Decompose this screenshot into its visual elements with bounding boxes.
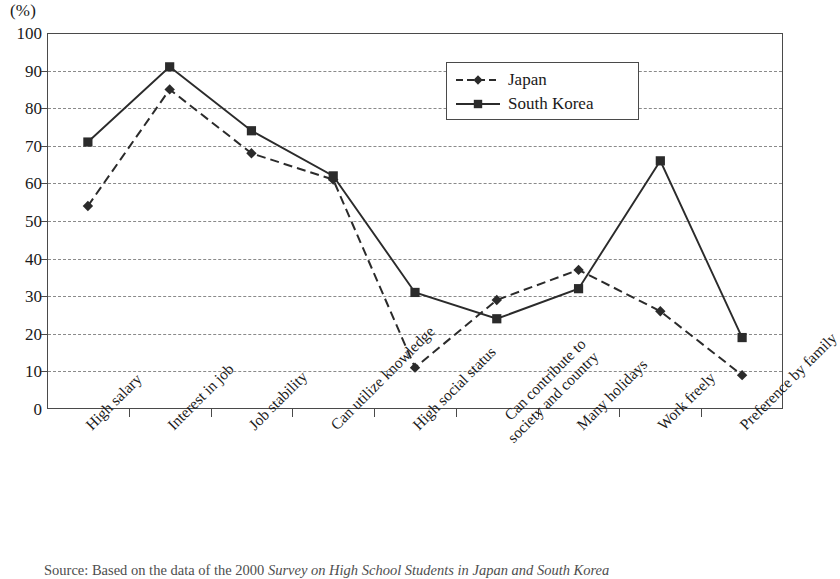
y-tick-label: 30 xyxy=(2,288,42,305)
y-tick-mark xyxy=(41,108,48,109)
source-note: Source: Based on the data of the 2000 Su… xyxy=(44,562,794,579)
y-tick-mark xyxy=(41,259,48,260)
legend-label-south-korea: South Korea xyxy=(508,95,593,113)
legend-entry-japan: Japan xyxy=(455,68,630,92)
gridline xyxy=(48,371,782,372)
gridline xyxy=(48,108,782,109)
diamond-marker-icon xyxy=(455,73,501,87)
x-tick-mark xyxy=(374,409,375,417)
y-tick-label: 80 xyxy=(2,100,42,117)
gridline xyxy=(48,221,782,222)
y-tick-label: 20 xyxy=(2,325,42,342)
x-tick-mark xyxy=(292,409,293,417)
chart-legend: Japan South Korea xyxy=(446,62,639,120)
x-tick-mark xyxy=(701,409,702,417)
gridline xyxy=(48,259,782,260)
y-tick-label: 0 xyxy=(2,401,42,418)
y-tick-mark xyxy=(41,146,48,147)
square-marker-icon xyxy=(455,97,501,111)
legend-label-japan: Japan xyxy=(508,71,547,89)
gridline xyxy=(48,183,782,184)
y-tick-mark xyxy=(41,221,48,222)
y-tick-label: 100 xyxy=(2,25,42,42)
x-tick-mark xyxy=(619,409,620,417)
y-tick-label: 60 xyxy=(2,175,42,192)
source-title: Survey on High School Students in Japan … xyxy=(268,562,609,578)
x-tick-mark xyxy=(129,409,130,417)
y-axis-unit-label: (%) xyxy=(10,2,36,19)
y-tick-label: 50 xyxy=(2,213,42,230)
y-tick-label: 10 xyxy=(2,363,42,380)
legend-entry-south-korea: South Korea xyxy=(455,92,630,116)
y-tick-mark xyxy=(41,71,48,72)
y-tick-label: 40 xyxy=(2,250,42,267)
gridline xyxy=(48,71,782,72)
y-tick-mark xyxy=(41,183,48,184)
source-prefix: Based on the data of the 2000 xyxy=(92,562,268,578)
gridline xyxy=(48,296,782,297)
y-tick-mark xyxy=(41,371,48,372)
y-tick-label: 90 xyxy=(2,62,42,79)
gridline xyxy=(48,146,782,147)
source-label: Source: xyxy=(44,562,92,578)
x-tick-mark xyxy=(211,409,212,417)
x-tick-mark xyxy=(456,409,457,417)
y-tick-mark xyxy=(41,334,48,335)
y-tick-mark xyxy=(41,296,48,297)
y-tick-label: 70 xyxy=(2,137,42,154)
